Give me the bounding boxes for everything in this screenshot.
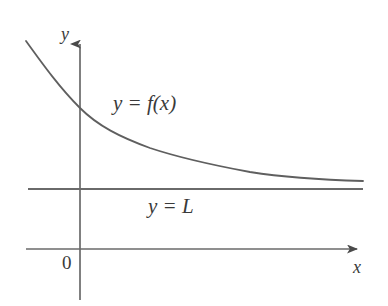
curve-label: y = f(x)	[113, 93, 176, 114]
limit-asymptote-figure: y = f(x) y = L y x 0	[0, 0, 388, 306]
graph-canvas	[0, 0, 388, 306]
function-curve	[26, 41, 363, 181]
x-axis-label: x	[353, 258, 361, 276]
asymptote-label: y = L	[148, 196, 194, 217]
y-axis-label: y	[61, 25, 69, 43]
origin-label: 0	[62, 253, 72, 272]
